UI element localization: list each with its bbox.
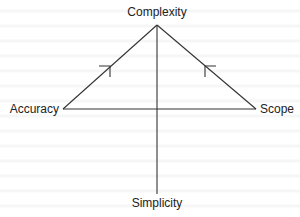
label-accuracy: Accuracy [10, 102, 59, 116]
label-simplicity: Simplicity [132, 196, 183, 210]
edge-scope-complexity [157, 25, 256, 109]
tradeoff-diagram: Complexity Accuracy Scope Simplicity [0, 0, 300, 217]
label-scope: Scope [260, 102, 294, 116]
label-complexity: Complexity [127, 5, 186, 19]
